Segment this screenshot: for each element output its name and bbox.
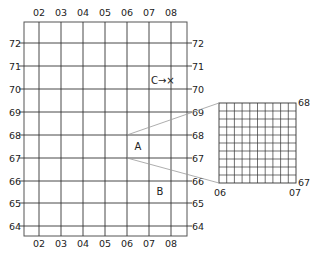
northing-label-left: 68 xyxy=(9,130,21,141)
grid-reference-diagram: 0202030304040505060607070808727271717070… xyxy=(0,0,317,255)
northing-label-right: 72 xyxy=(192,38,204,49)
northing-label-right: 70 xyxy=(192,84,204,95)
easting-label-top: 05 xyxy=(99,7,111,18)
connector-top xyxy=(127,103,219,135)
northing-label-left: 64 xyxy=(9,221,21,232)
northing-label-left: 66 xyxy=(9,176,21,187)
grid-border xyxy=(24,22,187,236)
northing-label-left: 70 xyxy=(9,84,21,95)
square-c-label: C→× xyxy=(151,75,175,86)
northing-label-left: 72 xyxy=(9,38,21,49)
easting-label-bottom: 07 xyxy=(143,238,155,249)
easting-label-top: 03 xyxy=(55,7,67,18)
northing-label-left: 65 xyxy=(9,198,21,209)
easting-label-top: 07 xyxy=(143,7,155,18)
easting-label-bottom: 08 xyxy=(165,238,177,249)
easting-label-bottom: 03 xyxy=(55,238,67,249)
easting-label-bottom: 04 xyxy=(77,238,89,249)
northing-label-left: 71 xyxy=(9,61,21,72)
easting-label-bottom: 05 xyxy=(99,238,111,249)
easting-label-bottom: 02 xyxy=(33,238,45,249)
inset-label-bottom-left: 06 xyxy=(214,187,226,198)
northing-label-right: 71 xyxy=(192,61,204,72)
easting-label-bottom: 06 xyxy=(121,238,133,249)
northing-label-left: 69 xyxy=(9,107,21,118)
northing-label-right: 67 xyxy=(192,153,204,164)
inset-grid: 68670607 xyxy=(214,97,310,198)
square-a-label: A xyxy=(135,141,142,152)
easting-label-top: 08 xyxy=(165,7,177,18)
inset-label-top-right: 68 xyxy=(298,97,310,108)
square-annotations: ABC→× xyxy=(135,75,175,197)
northing-label-right: 65 xyxy=(192,198,204,209)
easting-label-top: 06 xyxy=(121,7,133,18)
northing-label-right: 68 xyxy=(192,130,204,141)
connector-bottom xyxy=(127,158,219,183)
square-b-label: B xyxy=(157,186,164,197)
inset-label-bottom-easting: 07 xyxy=(289,187,301,198)
easting-label-top: 04 xyxy=(77,7,89,18)
main-grid xyxy=(19,22,192,236)
northing-label-left: 67 xyxy=(9,153,21,164)
easting-label-top: 02 xyxy=(33,7,45,18)
northing-label-right: 64 xyxy=(192,221,204,232)
